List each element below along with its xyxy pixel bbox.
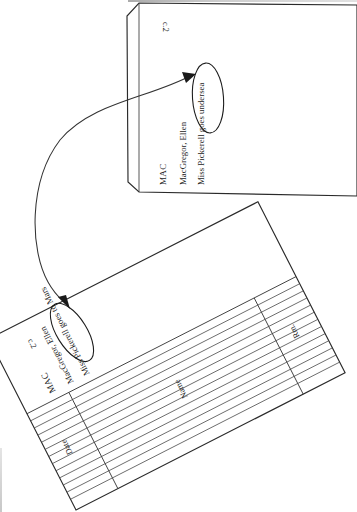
card-top-copy-mark: c.2: [161, 22, 170, 32]
card-top-title: Miss Pickerell goes undersea: [196, 83, 206, 185]
card-top-title-prefix: Miss Pickerell: [196, 132, 206, 185]
scan-page: c.2 MAC MacGregor, Ellen Miss Pickerell …: [0, 0, 357, 512]
card-top-call-number: MAC: [158, 163, 168, 185]
card-illustration: c.2 MAC MacGregor, Ellen Miss Pickerell …: [0, 0, 357, 512]
card-top-title-circled: goes undersea: [196, 83, 206, 133]
card-top[interactable]: c.2 MAC MacGregor, Ellen Miss Pickerell …: [127, 3, 357, 196]
card-bottom[interactable]: Date Name Rm. c.2 MAC MacGregor, Ellen M…: [0, 182, 345, 510]
card-top-author: MacGregor, Ellen: [178, 121, 188, 185]
